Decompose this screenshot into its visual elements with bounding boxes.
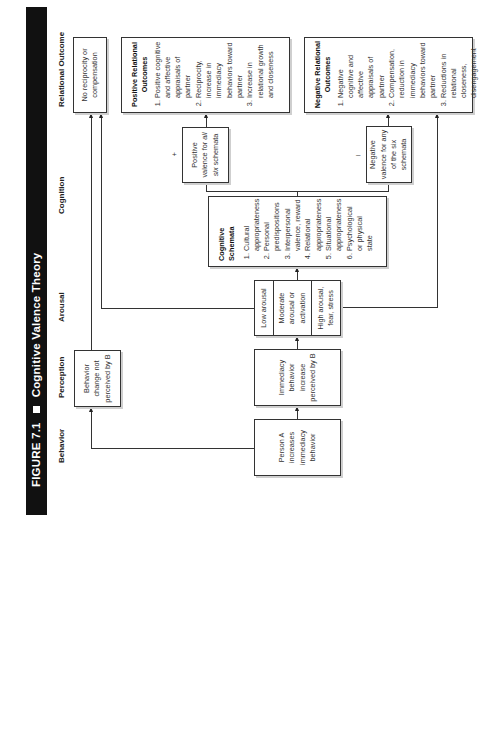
arrow-head-icon <box>89 407 93 412</box>
negative-outcome-item: Negative cognitive and affective apprais… <box>336 40 387 98</box>
positive-outcome-item: Increase in relational growth and closen… <box>245 40 276 98</box>
arrow-head-icon <box>204 113 208 118</box>
schemata-item: Situational appropriateness <box>324 199 345 251</box>
schemata-list: Cultural appropriateness Personal predis… <box>242 199 376 261</box>
connector-line <box>101 308 254 309</box>
square-icon <box>33 406 40 413</box>
node-perceived-text: Immediacy behavior increase perceived by… <box>277 352 318 404</box>
column-header-perception: Perception <box>57 357 66 398</box>
figure-title: FIGURE 7.1Cognitive Valence Theory <box>30 253 42 487</box>
connector-line <box>91 448 254 449</box>
positive-sign: + <box>172 150 177 159</box>
negative-sign: – <box>356 150 360 159</box>
node-no-reciprocity: No reciprocity or compensation <box>73 37 107 113</box>
connector-line <box>297 272 298 280</box>
positive-outcome-item: Positive cognitive and affective apprais… <box>153 40 194 98</box>
positive-outcomes-list: Positive cognitive and affective apprais… <box>153 40 277 109</box>
connector-line <box>91 118 92 350</box>
connector-line <box>297 411 298 419</box>
node-perceived-by-b: Immediacy behavior increase perceived by… <box>254 349 341 406</box>
schemata-item: Psychological or physical state <box>345 199 376 251</box>
node-negative-outcomes: Negative Relational Outcomes Negative co… <box>304 37 473 113</box>
connector-line <box>297 341 298 349</box>
arrow-head-icon <box>295 267 299 272</box>
connector-line <box>206 191 389 192</box>
node-not-perceived: Behavior change not perceived by B <box>74 350 121 407</box>
no-reciprocity-text: No reciprocity or compensation <box>80 42 101 108</box>
node-arousal: Low arousal Moderate arousal or activati… <box>254 280 341 336</box>
connector-line <box>206 118 207 127</box>
node-positive-outcomes: Positive Relational Outcomes Positive co… <box>121 37 290 113</box>
schemata-item: Relational appropriateness <box>303 199 324 251</box>
arrow-head-icon <box>295 406 299 411</box>
figure-title-bar: FIGURE 7.1Cognitive Valence Theory <box>26 7 47 515</box>
schemata-item: Personal predispositions <box>262 199 283 251</box>
schemata-item: Cultural appropriateness <box>242 199 263 251</box>
node-person-a-text: Person A increases immediacy behavior <box>277 426 318 470</box>
negative-valence-text: Negative valence for any of the six sche… <box>368 128 409 181</box>
arrow-head-icon <box>295 336 299 341</box>
arousal-high: High arousal, fear, stress <box>316 283 337 333</box>
arrow-head-icon <box>435 113 439 118</box>
figure-number: FIGURE 7.1 <box>30 422 42 487</box>
positive-outcome-item: Reciprocity, increase in immediacy behav… <box>194 40 245 98</box>
connector-line <box>437 118 438 308</box>
connector-line <box>91 412 92 449</box>
negative-outcomes-list: Negative cognitive and affective apprais… <box>336 40 480 109</box>
node-person-a: Person A increases immediacy behavior <box>254 419 341 476</box>
node-cognitive-schemata: Cognitive Schemata Cultural appropriaten… <box>208 196 387 267</box>
node-negative-valence: Negative valence for any of the six sche… <box>366 126 412 183</box>
schemata-title: Cognitive Schemata <box>217 199 238 261</box>
connector-line <box>101 118 102 309</box>
positive-valence-text-part: schemata <box>211 134 220 168</box>
negative-outcomes-title: Negative Relational Outcomes <box>313 40 334 109</box>
connector-line <box>388 183 389 192</box>
positive-valence-text-part: Positive valence for <box>190 140 209 178</box>
connector-line <box>341 307 438 308</box>
node-not-perceived-text: Behavior change not perceived by B <box>82 353 113 405</box>
column-header-relational-outcome: Relational Outcome <box>57 32 66 107</box>
schemata-item: Interpersonal valence, reward <box>283 199 304 251</box>
arrow-head-icon <box>386 113 390 118</box>
figure-title-text: Cognitive Valence Theory <box>30 253 42 398</box>
arrow-head-icon <box>89 113 93 118</box>
node-positive-valence: Positive valence for all six schemata <box>182 127 229 183</box>
negative-outcome-item: Reductions in relational closeness, dise… <box>439 40 480 98</box>
arousal-low: Low arousal <box>259 288 269 327</box>
connector-line <box>206 183 207 192</box>
arousal-moderate: Moderate arousal or activation <box>277 285 308 331</box>
arrow-head-icon <box>99 113 103 118</box>
negative-outcome-item: Compensation, reduction in immediacy beh… <box>387 40 438 98</box>
positive-valence-text: Positive valence for all six schemata <box>190 130 221 180</box>
positive-outcomes-title: Positive Relational Outcomes <box>130 40 151 109</box>
column-header-arousal: Arousal <box>57 292 66 322</box>
column-header-behavior: Behavior <box>57 429 66 463</box>
column-header-cognition: Cognition <box>57 177 66 214</box>
